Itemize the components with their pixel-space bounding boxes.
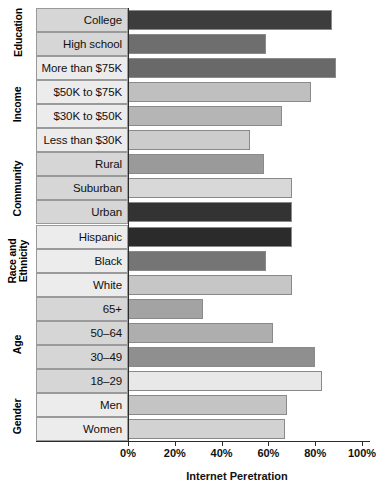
row-label-urban: Urban [36,200,128,224]
bar-row: College [36,8,386,32]
bar-row: Suburban [36,176,386,200]
bar-row: Women [36,417,386,441]
bar-row: 50–64 [36,321,386,345]
bar-black [128,251,266,271]
group-label-gender: Gender [0,393,36,441]
group-label-text: Gender [12,399,23,435]
bar-white [128,275,292,295]
x-tick-label: 60% [257,447,279,459]
bar-65 [128,299,203,319]
x-tick-label: 40% [211,447,233,459]
row-label-white: White [36,273,128,297]
bar-hispanic [128,227,292,247]
bar-row: Men [36,393,386,417]
x-tick [362,441,363,446]
group-label-education: Education [0,8,36,56]
group-label-text: Income [12,86,23,122]
row-label-high-school: High school [36,32,128,56]
group-label-text: Race andEthnicity [7,238,29,283]
x-tick [222,441,223,446]
bar-row: White [36,273,386,297]
bar-more-than-75k [128,58,336,78]
x-axis-line [36,441,370,442]
row-label-hispanic: Hispanic [36,225,128,249]
row-label-30k-to-50k: $30K to $50K [36,104,128,128]
bar-college [128,10,332,30]
x-tick-label: 20% [164,447,186,459]
x-tick-label: 0% [120,447,136,459]
bar-row: $30K to $50K [36,104,386,128]
row-label-65: 65+ [36,297,128,321]
row-label-30-49: 30–49 [36,345,128,369]
bar-rural [128,154,264,174]
row-label-women: Women [36,417,128,441]
bar-row: High school [36,32,386,56]
x-tick [128,441,129,446]
x-tick-label: 80% [304,447,326,459]
bar-row: $50K to $75K [36,80,386,104]
bar-30k-to-50k [128,106,282,126]
bar-30-49 [128,347,315,367]
bar-50-64 [128,323,273,343]
group-label-text: Education [13,8,24,57]
group-label-age: Age [0,297,36,393]
row-label-less-than-30k: Less than $30K [36,128,128,152]
group-label-community: Community [0,152,36,224]
group-label-text: Community [13,160,24,216]
bar-row: Less than $30K [36,128,386,152]
row-label-50k-to-75k: $50K to $75K [36,80,128,104]
bar-row: Rural [36,152,386,176]
row-label-suburban: Suburban [36,176,128,200]
row-label-50-64: 50–64 [36,321,128,345]
x-tick [315,441,316,446]
row-label-college: College [36,8,128,32]
bar-row: Urban [36,200,386,224]
y-axis-line [128,8,129,442]
x-tick [268,441,269,446]
group-label-column: EducationIncomeCommunityRace andEthnicit… [0,8,36,441]
x-tick [175,441,176,446]
bar-women [128,419,285,439]
group-label-race-and-ethnicity: Race andEthnicity [0,225,36,297]
bar-row: 65+ [36,297,386,321]
bar-row: Hispanic [36,225,386,249]
x-axis-title-label: Internet Peretration [98,470,287,482]
bar-high-school [128,34,266,54]
bar-less-than-30k [128,130,250,150]
row-label-18-29: 18–29 [36,369,128,393]
bar-row: Black [36,249,386,273]
bar-row: 30–49 [36,345,386,369]
bar-men [128,395,287,415]
row-label-rural: Rural [36,152,128,176]
bar-row: More than $75K [36,56,386,80]
plot-area: CollegeHigh schoolMore than $75K$50K to … [36,8,386,441]
row-label-black: Black [36,249,128,273]
group-label-text: Age [12,335,23,354]
row-label-men: Men [36,393,128,417]
bar-suburban [128,178,292,198]
bar-chart: EducationIncomeCommunityRace andEthnicit… [0,0,386,489]
bar-row: 18–29 [36,369,386,393]
bar-18-29 [128,371,322,391]
group-label-income: Income [0,56,36,152]
x-axis-title: Internet Peretration [0,470,386,482]
row-label-more-than-75k: More than $75K [36,56,128,80]
x-tick-label: 100% [348,447,376,459]
bar-50k-to-75k [128,82,311,102]
bar-urban [128,202,292,222]
